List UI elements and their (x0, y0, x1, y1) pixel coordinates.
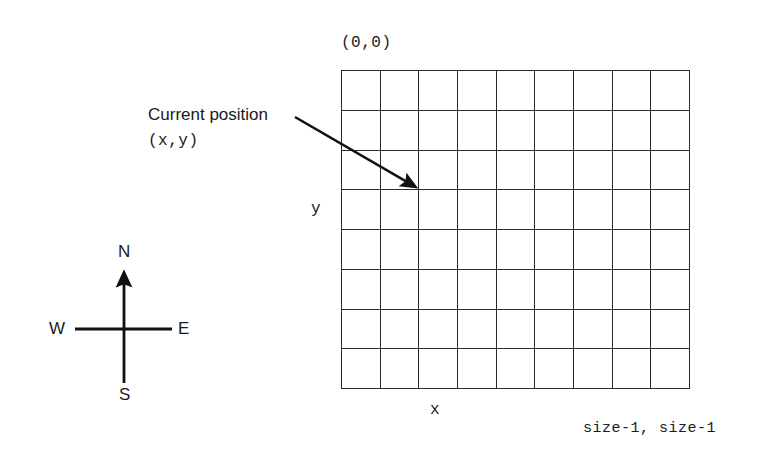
grid-cell[interactable] (535, 190, 574, 230)
far-corner-label: size-1, size-1 (583, 421, 716, 436)
grid-cell[interactable] (573, 150, 612, 190)
grid-cell[interactable] (419, 230, 458, 270)
grid-cell[interactable] (612, 71, 651, 111)
grid-cell[interactable] (535, 230, 574, 270)
grid-row (342, 230, 690, 270)
grid-cell[interactable] (612, 150, 651, 190)
coordinate-grid (341, 70, 690, 389)
grid-cell[interactable] (419, 190, 458, 230)
grid-cell[interactable] (342, 349, 381, 389)
grid-cell[interactable] (612, 269, 651, 309)
grid-cell[interactable] (380, 309, 419, 349)
grid-cell[interactable] (380, 71, 419, 111)
grid-cell[interactable] (612, 349, 651, 389)
grid-cell[interactable] (457, 349, 496, 389)
grid-cell[interactable] (342, 110, 381, 150)
grid-cell[interactable] (496, 309, 535, 349)
grid-table (341, 70, 690, 389)
grid-cell[interactable] (380, 190, 419, 230)
grid-cell[interactable] (342, 230, 381, 270)
grid-cell[interactable] (457, 71, 496, 111)
grid-cell[interactable] (496, 349, 535, 389)
compass-label-east: E (178, 320, 189, 337)
grid-cell[interactable] (457, 110, 496, 150)
grid-cell[interactable] (342, 309, 381, 349)
grid-cell[interactable] (419, 150, 458, 190)
y-axis-label: y (311, 201, 321, 217)
grid-row (342, 150, 690, 190)
current-position-label: Current position (148, 106, 268, 123)
grid-row (342, 309, 690, 349)
grid-cell[interactable] (535, 150, 574, 190)
grid-cell[interactable] (380, 110, 419, 150)
grid-row (342, 349, 690, 389)
grid-cell[interactable] (419, 110, 458, 150)
grid-cell[interactable] (535, 349, 574, 389)
grid-cell[interactable] (651, 190, 690, 230)
grid-cell[interactable] (651, 150, 690, 190)
grid-cell[interactable] (342, 190, 381, 230)
grid-cell[interactable] (651, 269, 690, 309)
diagram-canvas: (0,0) size-1, size-1 y x Current positio… (0, 0, 762, 449)
grid-cell[interactable] (573, 190, 612, 230)
grid-cell[interactable] (573, 269, 612, 309)
origin-label: (0,0) (341, 35, 392, 51)
grid-cell[interactable] (651, 349, 690, 389)
compass-label-south: S (119, 386, 130, 403)
grid-cell[interactable] (573, 110, 612, 150)
grid-cell[interactable] (496, 71, 535, 111)
grid-cell[interactable] (342, 71, 381, 111)
grid-cell[interactable] (573, 230, 612, 270)
grid-cell[interactable] (380, 150, 419, 190)
grid-cell[interactable] (496, 190, 535, 230)
grid-row (342, 269, 690, 309)
grid-cell[interactable] (496, 110, 535, 150)
grid-cell[interactable] (457, 230, 496, 270)
grid-cell[interactable] (535, 110, 574, 150)
grid-cell[interactable] (419, 71, 458, 111)
grid-cell[interactable] (612, 230, 651, 270)
grid-cell[interactable] (612, 190, 651, 230)
grid-cell[interactable] (651, 309, 690, 349)
grid-row (342, 110, 690, 150)
grid-cell[interactable] (573, 349, 612, 389)
compass-label-north: N (118, 243, 130, 260)
compass-label-west: W (49, 320, 65, 337)
grid-row (342, 71, 690, 111)
grid-cell[interactable] (380, 230, 419, 270)
grid-cell[interactable] (419, 349, 458, 389)
grid-cell[interactable] (651, 230, 690, 270)
grid-cell[interactable] (496, 230, 535, 270)
grid-body (342, 71, 690, 389)
grid-cell[interactable] (457, 309, 496, 349)
grid-cell[interactable] (651, 71, 690, 111)
grid-cell[interactable] (380, 269, 419, 309)
grid-cell[interactable] (573, 309, 612, 349)
grid-cell[interactable] (651, 110, 690, 150)
grid-cell[interactable] (419, 309, 458, 349)
current-position-coordinates: (x,y) (148, 133, 199, 149)
grid-row (342, 190, 690, 230)
grid-cell[interactable] (535, 309, 574, 349)
grid-cell[interactable] (419, 269, 458, 309)
grid-cell[interactable] (380, 349, 419, 389)
x-axis-label: x (430, 402, 440, 418)
grid-cell[interactable] (612, 309, 651, 349)
grid-cell[interactable] (457, 269, 496, 309)
grid-cell[interactable] (342, 269, 381, 309)
grid-cell[interactable] (535, 71, 574, 111)
grid-cell[interactable] (342, 150, 381, 190)
grid-cell[interactable] (457, 190, 496, 230)
grid-cell[interactable] (496, 150, 535, 190)
grid-cell[interactable] (573, 71, 612, 111)
grid-cell[interactable] (457, 150, 496, 190)
grid-cell[interactable] (496, 269, 535, 309)
grid-cell[interactable] (612, 110, 651, 150)
grid-cell[interactable] (535, 269, 574, 309)
